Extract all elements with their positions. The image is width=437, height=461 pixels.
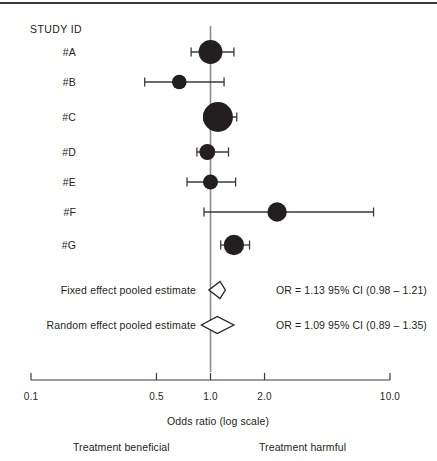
effect-marker-study-A bbox=[199, 40, 223, 64]
effect-marker-study-E bbox=[203, 174, 218, 189]
row-label-study-B: #B bbox=[0, 76, 76, 88]
forest-plot-canvas bbox=[0, 0, 437, 461]
x-axis-title: Odds ratio (log scale) bbox=[167, 415, 269, 427]
row-label-study-E: #E bbox=[0, 176, 76, 188]
footnote-treatment-harmful: Treatment harmful bbox=[259, 441, 346, 453]
effect-marker-study-F bbox=[267, 202, 286, 221]
pooled-diamond-fixed bbox=[209, 282, 225, 299]
effect-marker-study-B bbox=[172, 75, 187, 90]
x-tick-label-2.0: 2.0 bbox=[257, 391, 272, 402]
pooled-label-random: Random effect pooled estimate bbox=[0, 319, 196, 331]
pooled-diamond-random bbox=[201, 317, 233, 334]
pooled-label-fixed: Fixed effect pooled estimate bbox=[0, 284, 196, 296]
x-tick-label-1.0: 1.0 bbox=[203, 391, 218, 402]
effect-marker-study-C bbox=[203, 102, 233, 132]
x-tick-label-0.5: 0.5 bbox=[149, 391, 164, 402]
effect-marker-study-D bbox=[199, 144, 215, 160]
row-label-study-A: #A bbox=[0, 46, 76, 58]
footnote-treatment-beneficial: Treatment beneficial bbox=[73, 441, 170, 453]
effect-marker-study-G bbox=[224, 235, 244, 255]
study-id-header: STUDY ID bbox=[30, 23, 82, 35]
x-tick-label-0.1: 0.1 bbox=[24, 391, 39, 402]
row-label-study-D: #D bbox=[0, 146, 76, 158]
row-label-study-C: #C bbox=[0, 111, 76, 123]
row-label-study-G: #G bbox=[0, 239, 76, 251]
pooled-annotation-random: OR = 1.09 95% CI (0.89 – 1.35) bbox=[276, 319, 427, 331]
row-label-study-F: #F bbox=[0, 206, 76, 218]
x-tick-label-10.0: 10.0 bbox=[380, 391, 400, 402]
pooled-annotation-fixed: OR = 1.13 95% CI (0.98 – 1.21) bbox=[276, 284, 427, 296]
